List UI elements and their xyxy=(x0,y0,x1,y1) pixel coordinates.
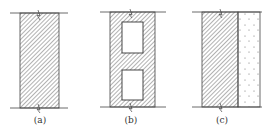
panel-c-label: (c) xyxy=(216,115,228,125)
wall-sections-diagram xyxy=(0,0,272,131)
upper-cavity xyxy=(122,22,143,53)
insulation-layer xyxy=(238,12,260,107)
panel-a-solid-wall xyxy=(10,10,68,113)
panel-b-label: (b) xyxy=(125,115,138,125)
panel-c-composite-wall xyxy=(192,9,262,112)
hatched-layer xyxy=(202,12,238,107)
lower-cavity xyxy=(122,70,143,100)
hatched-wall xyxy=(20,13,59,108)
panel-a-label: (a) xyxy=(34,115,46,125)
panel-b-hollow-wall xyxy=(100,9,166,112)
